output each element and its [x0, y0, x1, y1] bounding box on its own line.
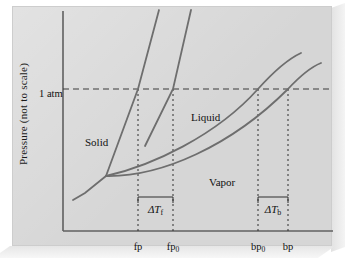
delta-tb-symbol: ΔT: [265, 203, 278, 215]
delta-tb-label: ΔTb: [265, 203, 282, 217]
region-label-solid: Solid: [85, 136, 108, 148]
delta-tb-sub: b: [277, 208, 281, 217]
delta-tf-label: ΔTf: [148, 203, 163, 217]
x-tick-fp0: fp0: [167, 241, 180, 254]
x-tick-fp0-text: fp: [167, 241, 176, 252]
x-tick-fp-text: fp: [134, 241, 143, 252]
region-label-liquid: Liquid: [191, 111, 220, 123]
one-atm-label: 1 atm: [39, 88, 63, 99]
x-tick-bp0-text: bp: [251, 241, 262, 252]
fusion-curve-solution: [106, 10, 159, 176]
diagram-panel: 1 atm Solid Liquid Vapor fp fp0 bp0 bp Δ…: [12, 6, 332, 246]
phase-diagram-figure: 1 atm Solid Liquid Vapor fp fp0 bp0 bp Δ…: [0, 0, 357, 270]
x-tick-bp0: bp0: [251, 241, 265, 254]
x-tick-fp: fp: [134, 241, 143, 252]
panel-bevel-right: [331, 3, 345, 252]
sublimation-curve: [73, 176, 106, 200]
x-tick-fp0-sub: 0: [176, 245, 180, 254]
x-tick-bp: bp: [283, 241, 294, 252]
y-axis-label: Pressure (not to scale): [17, 29, 29, 199]
region-label-vapor: Vapor: [209, 176, 235, 188]
x-tick-bp0-sub: 0: [261, 245, 265, 254]
x-tick-bp-text: bp: [283, 241, 294, 252]
phase-diagram-plot: [13, 7, 333, 247]
fusion-curve-pure-solvent: [145, 10, 191, 146]
delta-tf-symbol: ΔT: [148, 203, 161, 215]
delta-tf-sub: f: [160, 208, 163, 217]
